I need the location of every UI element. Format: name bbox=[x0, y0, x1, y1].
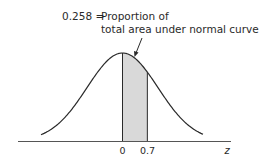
pointer-arrow-head bbox=[134, 51, 139, 57]
annotation-line2: total area under normal curve bbox=[101, 23, 259, 35]
axis-label-z: z bbox=[223, 145, 230, 156]
annotation-line1: Proportion of bbox=[101, 10, 169, 22]
shaded-area-0-to-0.7 bbox=[123, 53, 148, 141]
pointer-arrow-line bbox=[136, 38, 142, 53]
tick-label-0.7: 0.7 bbox=[140, 145, 155, 156]
area-value-label: 0.258 = bbox=[62, 10, 104, 22]
tick-label-0: 0 bbox=[119, 145, 125, 156]
normal-curve-figure: 0.258 = Proportion of total area under n… bbox=[0, 0, 261, 164]
